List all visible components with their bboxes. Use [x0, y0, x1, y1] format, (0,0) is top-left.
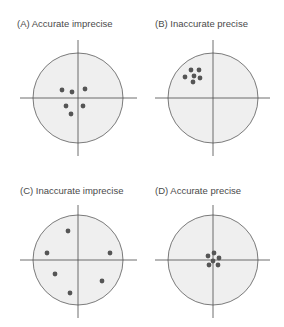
shot-dot [212, 251, 217, 256]
panel-a-target [20, 40, 137, 156]
shot-dot [108, 251, 113, 256]
shot-dot [217, 256, 222, 261]
shot-dot [53, 272, 58, 277]
panel-d-target [155, 205, 270, 318]
shot-dot [191, 80, 196, 85]
shot-dot [83, 87, 88, 92]
shot-dot [207, 263, 212, 268]
shot-dot [69, 112, 74, 117]
panel-b-target [155, 40, 270, 156]
shot-dot [64, 104, 69, 109]
shot-dot [45, 251, 50, 256]
shot-dot [192, 74, 197, 79]
shot-dot [197, 68, 202, 73]
shot-dot [70, 90, 75, 95]
shot-dot [100, 279, 105, 284]
shot-dot [211, 259, 216, 264]
shot-dot [60, 88, 65, 93]
shot-dot [216, 263, 221, 268]
target-diagram [0, 0, 284, 327]
shot-dot [189, 68, 194, 73]
panel-c-target [20, 205, 137, 318]
shot-dot [198, 76, 203, 81]
shot-dot [183, 75, 188, 80]
shot-dot [66, 229, 71, 234]
shot-dot [81, 104, 86, 109]
shot-dot [206, 254, 211, 259]
shot-dot [68, 291, 73, 296]
